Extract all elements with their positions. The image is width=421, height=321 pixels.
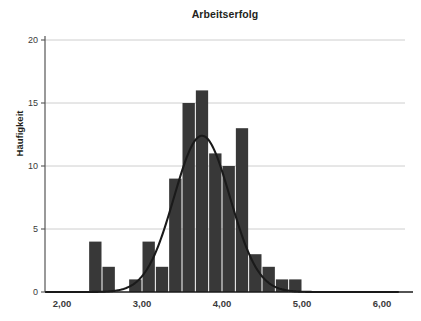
plot-area [0, 0, 421, 321]
histogram-bars [89, 90, 301, 292]
histogram-chart: Arbeitserfolg Häufigkeit 20 15 10 5 0 2,… [0, 0, 421, 321]
histogram-bar [156, 267, 168, 292]
histogram-bar [89, 242, 101, 292]
histogram-bar [196, 90, 208, 292]
histogram-bar [236, 128, 248, 292]
histogram-bar [103, 267, 115, 292]
histogram-bar [209, 153, 221, 292]
histogram-bar [223, 166, 235, 292]
histogram-bar [183, 103, 195, 292]
